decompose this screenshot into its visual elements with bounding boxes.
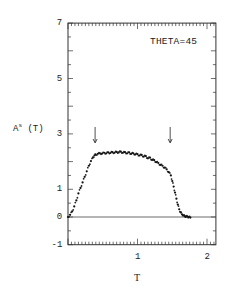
x-tick-label: 2	[205, 253, 210, 262]
y-tick-label: 0	[57, 213, 62, 222]
y-axis-label-argument: (T)	[22, 124, 44, 134]
y-axis-label-superscript: s	[18, 122, 22, 129]
y-tick-label: 1	[57, 185, 62, 194]
y-axis-label: As (T)	[13, 124, 44, 134]
arrow-markers	[93, 127, 172, 143]
y-tick-label: 5	[57, 75, 62, 84]
y-tick-label: 7	[57, 19, 62, 28]
x-tick-label: 1	[135, 253, 140, 262]
theta-annotation: THETA=45	[150, 36, 197, 47]
x-axis-label: T	[134, 272, 140, 283]
y-tick-label: -1	[52, 241, 63, 250]
axis-ticks	[68, 23, 216, 245]
plot-frame	[68, 23, 216, 245]
data-points	[67, 150, 192, 218]
y-tick-label: 3	[57, 130, 62, 139]
